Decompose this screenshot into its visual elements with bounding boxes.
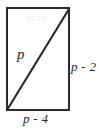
diagonal-length-label: p <box>17 47 25 62</box>
bottom-side-length-label: p - 4 <box>23 112 48 125</box>
geometry-figure: scan p p - 2 p - 4 <box>0 0 99 132</box>
right-side-length-label: p - 2 <box>71 60 96 73</box>
